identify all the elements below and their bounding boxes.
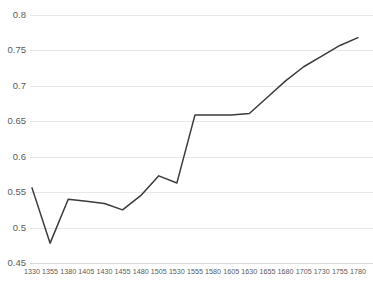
- line-chart: 0.80.750.70.650.60.550.50.45 13301355138…: [0, 0, 373, 285]
- y-axis-tick-label: 0.65: [0, 116, 26, 126]
- x-axis-tick-label: 1705: [296, 268, 312, 275]
- y-axis-tick-label: 0.55: [0, 187, 26, 197]
- x-axis-tick-label: 1605: [223, 268, 239, 275]
- x-axis-tick-label: 1655: [259, 268, 275, 275]
- y-axis-tick-label: 0.75: [0, 45, 26, 55]
- x-axis-tick-label: 1630: [241, 268, 257, 275]
- y-axis-tick-label: 0.7: [0, 81, 26, 91]
- x-axis-tick-label: 1405: [78, 268, 94, 275]
- x-axis-tick-label: 1480: [133, 268, 149, 275]
- x-axis-tick-label: 1580: [205, 268, 221, 275]
- gridlines: [30, 16, 373, 264]
- y-axis-tick-label: 0.5: [0, 223, 26, 233]
- x-axis-tick-label: 1530: [169, 268, 185, 275]
- y-axis-tick-label: 0.6: [0, 152, 26, 162]
- x-axis-tick-label: 1780: [350, 268, 366, 275]
- x-axis-tick-label: 1430: [96, 268, 112, 275]
- x-axis-tick-label: 1555: [187, 268, 203, 275]
- x-axis-tick-label: 1730: [314, 268, 330, 275]
- x-axis-tick-label: 1680: [278, 268, 294, 275]
- x-axis-tick-label: 1505: [151, 268, 167, 275]
- x-axis-tick-label: 1355: [42, 268, 58, 275]
- series-line: [32, 38, 358, 243]
- series-group: [32, 38, 358, 243]
- x-axis-tick-label: 1455: [115, 268, 131, 275]
- x-axis-tick-label: 1380: [60, 268, 76, 275]
- x-axis-tick-label: 1755: [332, 268, 348, 275]
- x-axis-tick-label: 1330: [24, 268, 40, 275]
- plot-area: [0, 0, 373, 285]
- y-axis-tick-label: 0.45: [0, 258, 26, 268]
- y-axis-tick-label: 0.8: [0, 10, 26, 20]
